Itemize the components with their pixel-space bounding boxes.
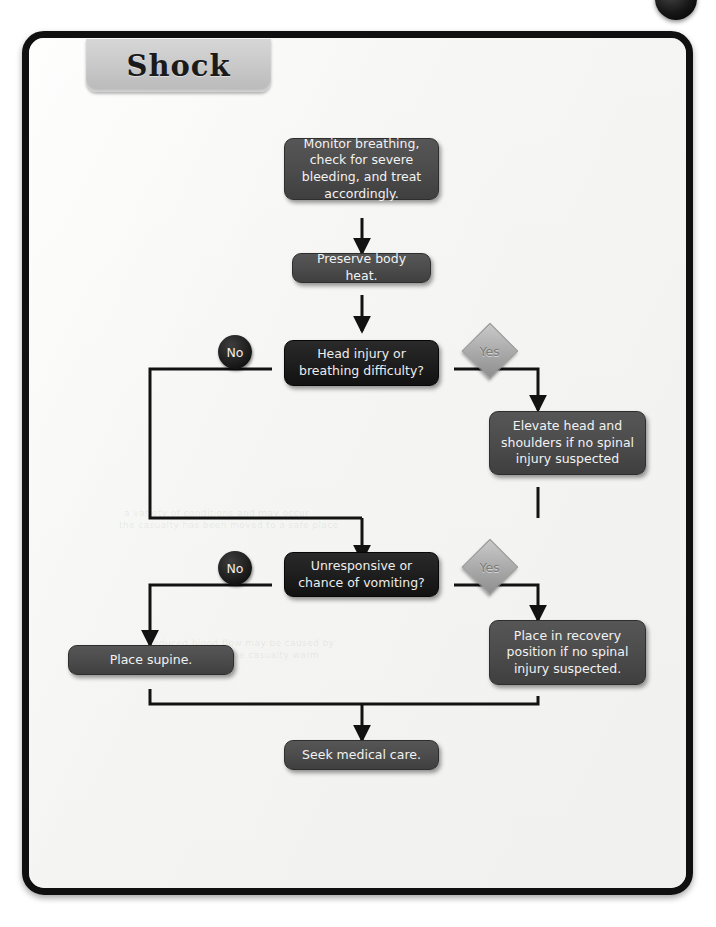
flow-node-place-supine[interactable]: Place supine. — [68, 645, 234, 675]
flow-node-label: Unresponsive or chance of vomiting? — [294, 558, 429, 591]
flow-node-recovery-position[interactable]: Place in recovery position if no spinal … — [489, 620, 646, 685]
branch-marker-label: No — [227, 345, 244, 360]
branch-marker-label: Yes — [480, 344, 500, 359]
flow-node-preserve-body-heat[interactable]: Preserve body heat. — [292, 253, 431, 283]
ghost-text-line: the casualty has been moved to a safe pl… — [119, 520, 339, 530]
branch-marker-no-head-injury: No — [218, 335, 252, 369]
flow-node-label: Preserve body heat. — [302, 251, 421, 284]
flow-node-label: Seek medical care. — [302, 747, 421, 764]
flow-node-label: Monitor breathing, check for severe blee… — [294, 136, 429, 203]
branch-marker-label: Yes — [480, 560, 500, 575]
page-title: Shock — [126, 49, 230, 83]
branch-marker-no-unresponsive: No — [218, 551, 252, 585]
spiral-binding-dot — [655, 0, 697, 20]
flow-node-label: Elevate head and shoulders if no spinal … — [499, 418, 636, 468]
ghost-text-line: a variety of conditions and may occur — [124, 508, 309, 518]
page-root: a variety of conditions and may occur th… — [0, 0, 716, 927]
flow-node-elevate-head[interactable]: Elevate head and shoulders if no spinal … — [489, 411, 646, 475]
flow-node-label: Place supine. — [110, 652, 193, 669]
branch-marker-label: No — [227, 561, 244, 576]
flow-node-unresponsive-decision[interactable]: Unresponsive or chance of vomiting? — [284, 552, 439, 597]
flow-node-head-injury-decision[interactable]: Head injury or breathing difficulty? — [284, 340, 439, 386]
page-title-tab: Shock — [86, 39, 271, 92]
flow-node-seek-medical-care[interactable]: Seek medical care. — [284, 740, 439, 770]
flow-node-label: Head injury or breathing difficulty? — [294, 346, 429, 379]
flow-node-label: Place in recovery position if no spinal … — [499, 628, 636, 678]
flow-node-monitor-breathing[interactable]: Monitor breathing, check for severe blee… — [284, 138, 439, 200]
